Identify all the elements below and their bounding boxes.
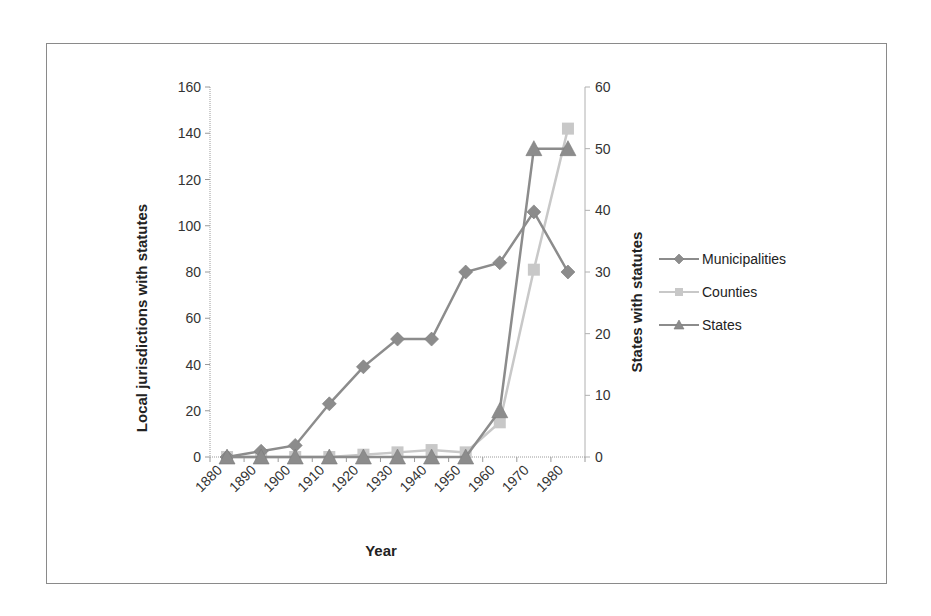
diamond-marker (527, 205, 541, 219)
y-right-tick-label: 30 (595, 264, 611, 280)
legend: MunicipalitiesCountiesStates (659, 251, 786, 333)
legend-label: States (702, 317, 742, 333)
y-left-tick-label: 100 (178, 218, 202, 234)
y-left-tick-label: 20 (185, 403, 201, 419)
y-left-tick-label: 80 (185, 264, 201, 280)
diamond-marker (493, 256, 507, 270)
legend-item-counties: Counties (659, 284, 757, 300)
diamond-marker (425, 332, 439, 346)
legend-label: Municipalities (702, 251, 786, 267)
y-left-tick-label: 140 (178, 125, 202, 141)
y-right-tick-label: 60 (595, 79, 611, 95)
square-marker (562, 123, 574, 135)
x-tick-label: 1950 (430, 462, 463, 495)
y-left-tick-label: 120 (178, 172, 202, 188)
legend-item-states: States (659, 317, 742, 333)
series-counties (221, 123, 574, 463)
x-tick-label: 1960 (465, 462, 498, 495)
y-right-tick-label: 10 (595, 387, 611, 403)
x-tick-label: 1940 (396, 462, 429, 495)
series-line (227, 129, 568, 457)
legend-item-municipalities: Municipalities (659, 251, 786, 267)
square-marker (528, 264, 540, 276)
y-right-tick-label: 50 (595, 141, 611, 157)
diamond-marker (459, 265, 473, 279)
line-chart: 0204060801001201401600102030405060188018… (0, 0, 931, 616)
square-marker (675, 288, 683, 296)
x-tick-label: 1900 (260, 462, 293, 495)
diamond-marker (674, 254, 684, 264)
y-right-axis-title: States with statutes (628, 232, 645, 373)
x-tick-label: 1880 (192, 462, 225, 495)
y-left-axis-title: Local jurisdictions with statutes (133, 204, 150, 432)
series-states (219, 141, 576, 464)
x-tick-label: 1910 (294, 462, 327, 495)
x-tick-label: 1920 (328, 462, 361, 495)
y-left-tick-label: 60 (185, 310, 201, 326)
y-left-tick-label: 40 (185, 357, 201, 373)
series-line (227, 149, 568, 457)
x-tick-label: 1930 (362, 462, 395, 495)
x-axis-title: Year (365, 542, 397, 559)
y-left-tick-label: 0 (193, 449, 201, 465)
y-right-tick-label: 20 (595, 326, 611, 342)
chart-series (219, 123, 576, 464)
y-right-tick-label: 40 (595, 202, 611, 218)
chart-axes: 0204060801001201401600102030405060188018… (178, 79, 611, 495)
x-tick-label: 1970 (499, 462, 532, 495)
y-right-tick-label: 0 (595, 449, 603, 465)
legend-label: Counties (702, 284, 757, 300)
x-tick-label: 1890 (226, 462, 259, 495)
y-left-tick-label: 160 (178, 79, 202, 95)
x-tick-label: 1980 (533, 462, 566, 495)
triangle-marker (492, 403, 508, 418)
diamond-marker (561, 265, 575, 279)
